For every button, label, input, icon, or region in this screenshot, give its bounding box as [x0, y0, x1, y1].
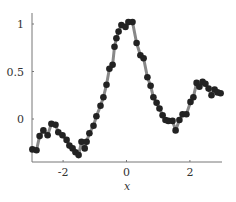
data-point: [90, 122, 97, 129]
data-point: [33, 147, 40, 154]
data-point: [93, 113, 100, 120]
y-tick-label: 0.5: [7, 66, 25, 79]
data-point: [205, 85, 212, 92]
data-point: [129, 19, 136, 26]
data-point: [153, 100, 160, 107]
data-point: [97, 102, 104, 109]
data-point: [133, 40, 140, 47]
data-point: [144, 74, 151, 81]
axes: [32, 13, 222, 162]
data-point: [140, 55, 147, 62]
data-point: [86, 130, 93, 137]
data-point: [183, 111, 190, 118]
data-point: [111, 44, 118, 51]
data-point: [113, 35, 120, 42]
data-point: [217, 90, 224, 97]
data-point: [169, 118, 176, 125]
y-tick-label: 0: [17, 113, 24, 126]
data-point: [150, 94, 157, 101]
chart: -202 00.51 x: [0, 0, 236, 202]
y-tick-label: 1: [17, 18, 24, 31]
x-tick-label: 2: [186, 166, 193, 179]
data-point: [83, 139, 90, 146]
data-point: [172, 127, 179, 134]
data-point: [147, 83, 154, 90]
data-point: [156, 105, 163, 112]
x-axis-title: x: [124, 180, 131, 193]
x-tick-label: -2: [58, 166, 69, 179]
data-point: [115, 28, 122, 35]
x-tick-label: 0: [123, 166, 130, 179]
data-point: [36, 133, 43, 140]
x-ticks: -202: [58, 160, 194, 179]
data-point: [63, 137, 70, 144]
data-point: [75, 152, 82, 159]
data-point: [190, 94, 197, 101]
y-ticks: 00.51: [7, 18, 35, 126]
data-point: [176, 117, 183, 124]
data-point: [100, 94, 107, 101]
data-point: [81, 145, 88, 152]
data-point: [208, 92, 215, 99]
data-point: [103, 82, 110, 89]
data-point: [44, 132, 51, 139]
data-point: [109, 62, 116, 69]
data-point: [52, 121, 59, 128]
